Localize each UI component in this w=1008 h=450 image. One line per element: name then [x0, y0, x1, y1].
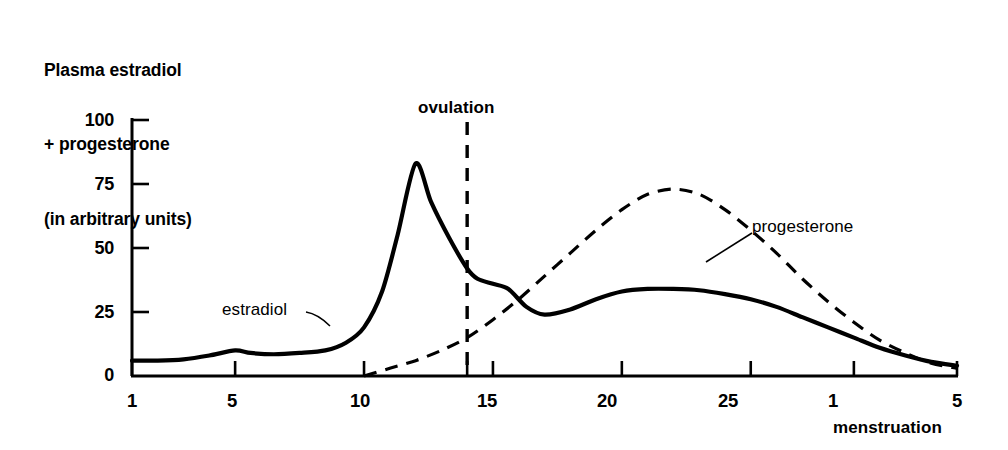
y-axis-ticks [132, 120, 149, 376]
chart-plot-area [0, 0, 1008, 450]
series-line-estradiol [132, 163, 957, 366]
chart-figure: Plasma estradiol + progesterone (in arbi… [0, 0, 1008, 450]
x-axis-ticks [132, 361, 957, 376]
series-line-progesterone [364, 189, 957, 376]
leader-line-progesterone [706, 233, 752, 262]
leader-line-estradiol [306, 312, 330, 326]
axes [131, 118, 958, 376]
